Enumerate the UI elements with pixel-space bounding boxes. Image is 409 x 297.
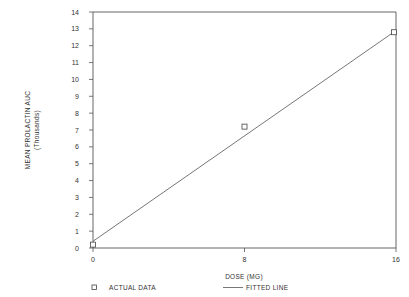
legend: ACTUAL DATA FITTED LINE [92,284,289,291]
x-tick-label: 16 [392,256,400,263]
x-axis-title: DOSE (MG) [225,273,263,281]
y-tick-label: 11 [72,59,79,66]
legend-fitted-line: FITTED LINE [246,284,289,291]
chart: 01234567891011121314 0816 MEAN PROLACTIN… [0,0,409,297]
y-tick-label: 1 [75,228,79,235]
y-tick-label: 6 [75,143,79,150]
y-tick-label: 7 [75,127,79,134]
plot-frame [93,12,396,248]
y-axis-subtitle: (Thousands) [33,110,41,150]
y-tick-label: 5 [75,160,79,167]
y-ticks: 01234567891011121314 [71,9,93,252]
legend-square-icon [92,285,97,290]
y-tick-label: 3 [75,194,79,201]
y-tick-label: 8 [75,110,79,117]
y-tick-label: 2 [75,211,79,218]
y-axis-title-group: MEAN PROLACTIN AUC (Thousands) [24,91,41,169]
data-point-square-icon [91,242,96,247]
y-tick-label: 4 [75,177,79,184]
y-tick-label: 9 [75,93,79,100]
y-tick-label: 0 [75,245,79,252]
data-point-square-icon [242,124,247,129]
x-ticks: 0816 [91,248,400,263]
y-tick-label: 12 [71,42,79,49]
y-tick-label: 14 [71,9,79,16]
y-tick-label: 13 [71,25,79,32]
legend-actual-data: ACTUAL DATA [109,284,156,291]
x-tick-label: 0 [91,256,95,263]
y-axis-title: MEAN PROLACTIN AUC [24,91,31,169]
x-tick-label: 8 [243,256,247,263]
data-point-square-icon [392,30,397,35]
fitted-line [93,31,396,242]
y-tick-label: 10 [71,76,79,83]
